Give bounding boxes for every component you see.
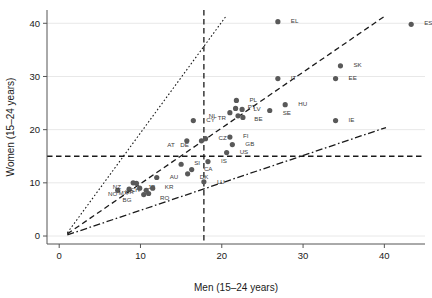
data-point-label-kr: KR bbox=[165, 183, 174, 190]
data-point-ee bbox=[333, 76, 338, 81]
data-point-lv bbox=[239, 107, 244, 112]
data-point-label-tr: TR bbox=[218, 114, 227, 121]
plot-canvas: 010203040010203040Men (15–24 years)Women… bbox=[0, 0, 432, 298]
data-point-es bbox=[409, 22, 414, 27]
data-point-hr bbox=[144, 188, 149, 193]
data-point-nl bbox=[227, 110, 232, 115]
data-point-label-cy: CY bbox=[206, 116, 215, 123]
data-point-label-ca: CA bbox=[204, 165, 213, 172]
data-point-label-fi: FI bbox=[243, 132, 249, 139]
data-point-us bbox=[224, 150, 229, 155]
data-point-label-ee: EE bbox=[349, 74, 357, 81]
data-point-lu bbox=[201, 179, 206, 184]
x-tick-label: 30 bbox=[298, 250, 309, 261]
data-point-is bbox=[205, 159, 210, 164]
data-point-label-lv: LV bbox=[253, 105, 261, 112]
data-point-be bbox=[240, 115, 245, 120]
x-tick-label: 0 bbox=[57, 250, 62, 261]
data-point-jp bbox=[134, 181, 139, 186]
data-point-pl bbox=[234, 98, 239, 103]
y-tick-label: 40 bbox=[29, 18, 40, 29]
data-point-label-dk: DK bbox=[200, 173, 209, 180]
lower-ratio-line bbox=[67, 128, 386, 235]
data-point-hu bbox=[283, 102, 288, 107]
data-point-dk bbox=[185, 171, 190, 176]
data-point-label-it: IT bbox=[291, 74, 297, 81]
data-point-se bbox=[267, 108, 272, 113]
data-point-fi bbox=[227, 135, 232, 140]
data-point-gb bbox=[230, 142, 235, 147]
y-tick-label: 10 bbox=[29, 177, 40, 188]
data-point-ca bbox=[189, 167, 194, 172]
y-tick-label: 0 bbox=[35, 230, 40, 241]
data-point-label-si: SI bbox=[194, 159, 200, 166]
data-point-label-ie: IE bbox=[349, 116, 355, 123]
data-point-label-el: EL bbox=[291, 17, 299, 24]
x-tick-label: 40 bbox=[379, 250, 390, 261]
equality-line bbox=[67, 15, 386, 234]
data-point-label-is: IS bbox=[221, 157, 227, 164]
y-axis-title: Women (15–24 years) bbox=[5, 78, 16, 177]
data-point-au bbox=[154, 175, 159, 180]
data-point-mx bbox=[137, 186, 142, 191]
data-point-kr bbox=[150, 186, 155, 191]
data-point-label-hu: HU bbox=[298, 100, 307, 107]
data-point-el bbox=[275, 19, 280, 24]
data-point-tr bbox=[235, 113, 240, 118]
data-point-label-bg: BG bbox=[123, 196, 132, 203]
data-point-it bbox=[275, 76, 280, 81]
data-point-label-at: AT bbox=[167, 141, 175, 148]
data-point-si bbox=[179, 162, 184, 167]
data-point-label-cz: CZ bbox=[219, 134, 227, 141]
data-point-sk bbox=[338, 63, 343, 68]
x-tick-label: 10 bbox=[135, 250, 146, 261]
data-point-de bbox=[199, 138, 204, 143]
data-point-label-hr: HR bbox=[125, 188, 134, 195]
data-point-at bbox=[184, 138, 189, 143]
scatter-chart: 010203040010203040Men (15–24 years)Women… bbox=[0, 0, 432, 298]
data-point-label-us: US bbox=[240, 148, 249, 155]
data-point-label-ro: RO bbox=[160, 194, 169, 201]
data-point-cy bbox=[191, 118, 196, 123]
data-point-pt bbox=[233, 106, 238, 111]
y-tick-label: 30 bbox=[29, 71, 40, 82]
upper-ratio-line bbox=[67, 15, 226, 233]
data-point-label-se: SE bbox=[283, 109, 291, 116]
data-point-label-sk: SK bbox=[353, 61, 362, 68]
y-tick-label: 20 bbox=[29, 124, 40, 135]
x-tick-label: 20 bbox=[216, 250, 227, 261]
data-point-label-no: NO bbox=[108, 190, 117, 197]
x-axis-title: Men (15–24 years) bbox=[194, 282, 278, 293]
data-point-ie bbox=[333, 118, 338, 123]
data-point-label-be: BE bbox=[254, 115, 262, 122]
data-point-label-gb: GB bbox=[245, 140, 254, 147]
data-point-label-es: ES bbox=[424, 19, 432, 26]
data-point-label-au: AU bbox=[170, 173, 179, 180]
data-point-label-lu: LU bbox=[217, 178, 225, 185]
data-point-label-pl: PL bbox=[249, 96, 257, 103]
